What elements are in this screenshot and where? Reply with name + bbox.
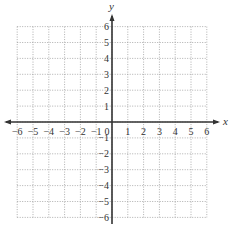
axes: x y	[4, 0, 228, 224]
y-tick-label: 5	[104, 37, 109, 48]
x-tick-label: −4	[43, 126, 54, 137]
x-tick-label: −3	[59, 126, 70, 137]
x-tick-labels: −6−5−4−3−2−10123456	[12, 126, 209, 137]
x-axis-right-arrow-icon	[213, 120, 220, 125]
y-tick-label: 1	[104, 101, 109, 112]
y-axis-label: y	[108, 0, 114, 12]
y-tick-label: 2	[104, 85, 109, 96]
y-tick-label: 4	[104, 53, 109, 64]
x-tick-label: 4	[173, 126, 178, 137]
x-tick-label: 5	[189, 126, 194, 137]
y-tick-label: −2	[98, 148, 109, 159]
y-tick-label: −1	[98, 132, 109, 143]
x-tick-label: 3	[157, 126, 162, 137]
coordinate-plane: x y −6−5−4−3−2−10123456 654321−1−2−3−4−5…	[0, 0, 230, 226]
x-tick-label: −6	[12, 126, 23, 137]
y-tick-label: −4	[98, 180, 109, 191]
y-tick-label: 3	[104, 69, 109, 80]
x-tick-label: 1	[125, 126, 130, 137]
x-axis-left-arrow-icon	[4, 120, 11, 125]
y-axis-up-arrow-icon	[110, 14, 115, 21]
y-tick-label: −6	[98, 212, 109, 223]
x-axis-label: x	[222, 115, 228, 127]
x-tick-label: 2	[141, 126, 146, 137]
y-tick-label: 6	[104, 21, 109, 32]
x-tick-label: 6	[204, 126, 209, 137]
x-tick-label: −5	[28, 126, 39, 137]
y-tick-label: −3	[98, 164, 109, 175]
y-tick-label: −5	[98, 196, 109, 207]
x-tick-label: −2	[75, 126, 86, 137]
